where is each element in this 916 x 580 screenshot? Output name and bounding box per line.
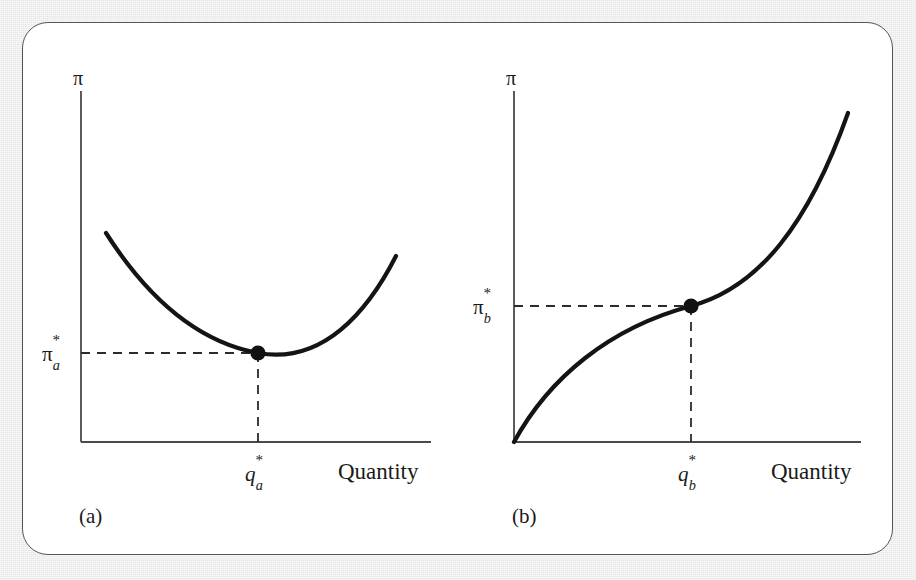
x-axis-label-b: Quantity [771, 460, 852, 483]
sub-glyph-a-x: a [256, 477, 263, 493]
figure-root: π π*a q*a Quantity (a) [0, 0, 916, 580]
star-glyph-a-y: * [53, 332, 61, 348]
x-axis-label-a: Quantity [338, 460, 419, 483]
sub-glyph-b-y: b [484, 310, 491, 326]
figure-card: π π*a q*a Quantity (a) [22, 22, 893, 555]
pi-glyph-b: π [473, 295, 484, 319]
optimum-profit-math-a: π*a [42, 342, 67, 366]
panel-b: π π*b q*b Quantity (b) [459, 23, 895, 556]
panel-caption-a: (a) [79, 506, 102, 527]
sub-glyph-b-x: b [689, 477, 696, 493]
star-glyph-b-y: * [484, 285, 492, 301]
q-glyph-b: q [678, 462, 689, 486]
star-glyph-a-x: * [256, 452, 264, 468]
optimum-point-a [250, 345, 265, 360]
optimum-quantity-math-b: q*b [678, 462, 703, 486]
pi-glyph-a: π [42, 342, 53, 366]
optimum-point-b [683, 298, 698, 313]
panel-caption-b: (b) [512, 506, 537, 527]
profit-curve-a [106, 233, 396, 355]
optimum-quantity-label-a: q*a [245, 461, 270, 488]
y-axis-label-b: π [506, 68, 516, 88]
optimum-profit-label-a: π*a [42, 341, 67, 368]
optimum-profit-math-b: π*b [473, 295, 498, 319]
sub-glyph-a-y: a [53, 357, 60, 373]
star-glyph-b-x: * [689, 452, 697, 468]
optimum-quantity-label-b: q*b [678, 461, 703, 488]
optimum-profit-label-b: π*b [473, 294, 498, 321]
y-axis-label-a: π [73, 68, 83, 88]
panel-a: π π*a q*a Quantity (a) [23, 23, 459, 556]
q-glyph-a: q [245, 462, 256, 486]
profit-curve-b [514, 113, 848, 442]
optimum-quantity-math-a: q*a [245, 462, 270, 486]
